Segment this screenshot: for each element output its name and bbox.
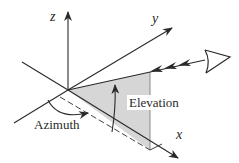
azimuth-label: Azimuth: [34, 118, 80, 131]
elevation-label: Elevation: [127, 95, 181, 110]
azimuth-elevation-diagram: z y x Elevation Azimuth: [0, 0, 239, 163]
eye-icon: [205, 50, 230, 73]
x-axis-label: x: [176, 128, 182, 142]
axis-upper-left-line: [22, 62, 68, 90]
y-axis-label: y: [152, 12, 158, 26]
diagram-canvas: [0, 0, 239, 163]
z-axis-label: z: [50, 10, 55, 24]
elevation-plane: [68, 72, 150, 150]
